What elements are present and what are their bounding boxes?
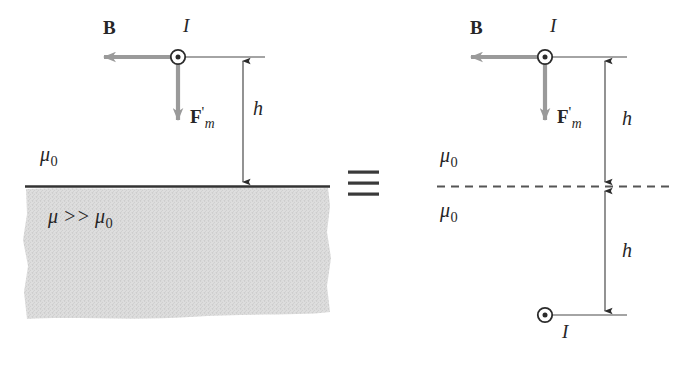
left-force-prime-mark: ' — [202, 103, 205, 120]
right-height-bottom-label: h — [622, 240, 632, 260]
left-mu-above-symbol: μ — [40, 143, 50, 165]
left-panel-group — [23, 50, 331, 319]
left-height-label: h — [253, 98, 263, 118]
right-mu-above-label: μ0 — [440, 145, 458, 169]
right-b-field-label: B — [470, 18, 483, 37]
right-panel-group — [437, 50, 672, 322]
image-current-label: I — [562, 322, 568, 341]
right-mu-above-symbol: μ — [440, 144, 450, 166]
left-mu-below-symbol: μ >> μ — [48, 205, 105, 227]
right-mu-below-subscript: 0 — [451, 209, 458, 225]
image-current-symbol-out-of-page — [538, 308, 552, 322]
left-force-label: F'm — [190, 104, 215, 130]
left-current-symbol-out-of-page — [171, 50, 185, 64]
right-mu-above-subscript: 0 — [451, 154, 458, 170]
right-force-label: F'm — [557, 104, 582, 130]
physics-figure-magnetic-image: B I F'm h μ0 μ >> μ0 B I F'm h h μ0 μ0 I — [0, 0, 687, 365]
right-force-subscript: m — [572, 116, 582, 131]
right-mu-below-symbol: μ — [440, 199, 450, 221]
right-force-symbol: F — [557, 106, 569, 127]
left-mu-below-label: μ >> μ0 — [48, 206, 113, 230]
left-b-field-label: B — [103, 18, 116, 37]
right-force-prime-mark: ' — [569, 103, 572, 120]
left-mu-above-subscript: 0 — [51, 153, 58, 169]
right-height-top-label: h — [622, 108, 632, 128]
right-current-symbol-out-of-page — [538, 50, 552, 64]
left-mu-above-label: μ0 — [40, 144, 58, 168]
left-force-subscript: m — [205, 116, 215, 131]
right-mu-below-label: μ0 — [440, 200, 458, 224]
left-mu-below-subscript: 0 — [106, 215, 113, 231]
figure-canvas — [0, 0, 687, 365]
left-force-symbol: F — [190, 106, 202, 127]
left-current-label: I — [183, 16, 189, 35]
equivalence-symbol-identical-to — [348, 171, 379, 196]
right-current-top-label: I — [550, 16, 556, 35]
